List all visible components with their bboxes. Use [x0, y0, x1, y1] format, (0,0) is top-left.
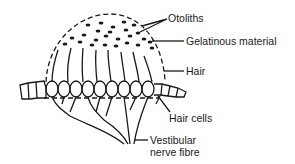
vestibular-nerve-fibres: [52, 96, 160, 144]
hairs: [52, 48, 152, 82]
label-otoliths: Otoliths: [168, 12, 204, 24]
label-nerve-fibre: nerve fibre: [150, 146, 200, 158]
otolith-diagram: [0, 0, 295, 164]
hair-cells: [20, 81, 186, 99]
label-hair: Hair: [186, 65, 205, 77]
label-vestibular: Vestibular: [150, 134, 196, 146]
label-hair-cells: Hair cells: [169, 112, 212, 124]
label-gelatinous-material: Gelatinous material: [186, 35, 276, 47]
